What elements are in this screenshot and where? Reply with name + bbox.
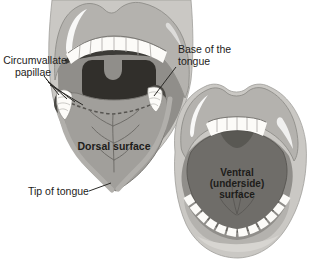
tongue-anatomy-diagram: Circumvallate papillae Base of the tongu… [0, 0, 309, 261]
base-of-tongue-label-line2: tongue [178, 55, 210, 67]
tongue-anatomy-figure: Circumvallate papillae Base of the tongu… [0, 0, 309, 261]
ventral-surface-label-line1: Ventral [220, 167, 254, 178]
base-of-tongue-label-line1: Base of the [178, 43, 231, 55]
ventral-surface-label-line3: surface [219, 189, 255, 200]
ventral-surface-label-line2: (underside) [210, 178, 264, 189]
dorsal-view-mouth [49, 0, 193, 191]
circumvallate-papillae-label-line1: Circumvallate [3, 54, 67, 66]
dorsal-surface-label: Dorsal surface [78, 140, 151, 152]
uvula [104, 60, 122, 80]
circumvallate-papillae-label-line2: papillae [15, 66, 51, 78]
tip-of-tongue-label: Tip of tongue [28, 185, 89, 197]
